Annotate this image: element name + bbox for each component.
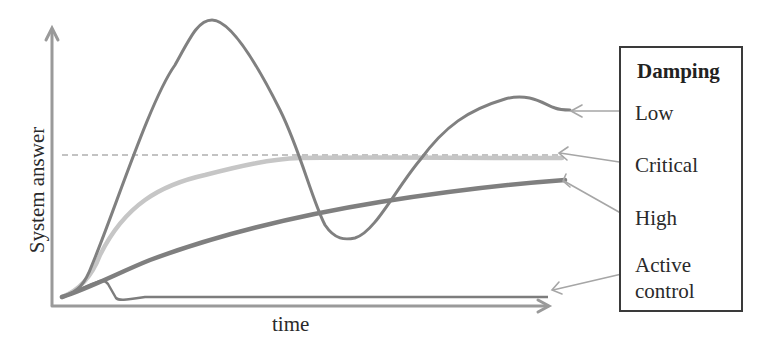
curve-active-control — [62, 281, 548, 300]
arrow-critical — [560, 153, 626, 163]
legend-title: Damping — [637, 59, 720, 84]
arrow-high — [564, 181, 626, 216]
legend-item-active-line1: Active — [635, 252, 691, 278]
pointer-arrows — [552, 105, 626, 294]
x-axis-label: time — [272, 312, 309, 337]
legend-item-high: High — [635, 205, 677, 231]
legend-item-critical: Critical — [635, 152, 698, 178]
legend-box: Damping Low Critical High Active control — [619, 46, 743, 312]
legend-item-active-line2: control — [635, 278, 694, 304]
x-axis — [52, 300, 549, 312]
curve-critical — [62, 158, 562, 297]
legend-item-low: Low — [635, 100, 674, 126]
y-axis-label: System answer — [25, 127, 50, 254]
arrow-active-control — [553, 273, 626, 290]
